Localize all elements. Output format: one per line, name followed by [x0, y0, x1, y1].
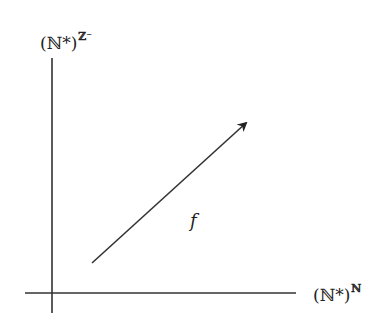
arrow-label: f [190, 210, 197, 231]
x-axis-label-base: (ℕ*) [313, 285, 350, 305]
y-axis-label: (ℕ*)ℤ⁻ [40, 30, 92, 53]
x-axis-label: (ℕ*)ℕ [313, 282, 361, 305]
y-axis-label-exponent: ℤ⁻ [78, 30, 92, 43]
x-axis-label-exponent: ℕ [351, 282, 361, 295]
y-axis-label-base: (ℕ*) [40, 33, 77, 53]
mapping-arrow [92, 123, 246, 263]
